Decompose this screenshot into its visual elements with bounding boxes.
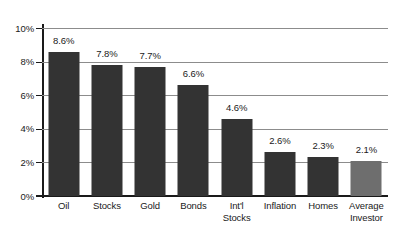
bar-slot: 8.6%	[42, 28, 85, 196]
x-axis-label-line: Homes	[302, 200, 345, 212]
bar-slot: 2.1%	[345, 28, 388, 196]
x-axis-label-stocks: Stocks	[85, 200, 128, 212]
plot-area: 8.6% 7.8% 7.7% 6.6% 4.6% 2.6%	[42, 28, 388, 196]
bar-value-label: 2.6%	[269, 136, 290, 146]
y-axis-tick-label: 10%	[0, 24, 34, 34]
x-axis-label-line: Average	[345, 200, 388, 212]
bar-value-label: 7.8%	[96, 49, 117, 59]
x-axis-label-line: Oil	[42, 200, 85, 212]
x-axis-label-bonds: Bonds	[172, 200, 215, 212]
bar-bonds[interactable]	[178, 85, 209, 196]
bar-value-label: 2.1%	[356, 145, 377, 155]
x-axis-label-oil: Oil	[42, 200, 85, 212]
bar-slot: 7.8%	[85, 28, 128, 196]
x-axis-label-line: Gold	[129, 200, 172, 212]
bar-slot: 7.7%	[129, 28, 172, 196]
bar-slot: 6.6%	[172, 28, 215, 196]
bar-intl-stocks[interactable]	[221, 119, 252, 196]
y-axis-tick-label: 2%	[0, 158, 34, 168]
x-axis-labels: Oil Stocks Gold Bonds Int'l Stocks Infla…	[42, 200, 388, 234]
x-axis-label-gold: Gold	[129, 200, 172, 212]
bar-homes[interactable]	[308, 157, 339, 196]
x-axis-label-average-investor: Average Investor	[345, 200, 388, 223]
x-axis-label-homes: Homes	[302, 200, 345, 212]
x-axis-label-line: Inflation	[258, 200, 301, 212]
bar-slot: 4.6%	[215, 28, 258, 196]
bar-inflation[interactable]	[264, 152, 295, 196]
y-axis-tick-label: 0%	[0, 192, 34, 202]
bar-value-label: 8.6%	[53, 36, 74, 46]
bar-gold[interactable]	[135, 67, 166, 196]
x-axis-label-intl-stocks: Int'l Stocks	[215, 200, 258, 223]
bar-stocks[interactable]	[91, 65, 122, 196]
bar-oil[interactable]	[48, 52, 79, 197]
x-axis-label-inflation: Inflation	[258, 200, 301, 212]
bar-slot: 2.6%	[258, 28, 301, 196]
x-axis-label-line: Bonds	[172, 200, 215, 212]
bar-chart: 10% 8% 6% 4% 2% 0% 8.6% 7.8% 7.7%	[0, 0, 405, 236]
bar-value-label: 2.3%	[312, 141, 333, 151]
x-axis-label-line: Investor	[345, 212, 388, 224]
bar-average-investor[interactable]	[351, 161, 382, 196]
y-axis-tick-label: 8%	[0, 57, 34, 67]
bar-value-label: 6.6%	[183, 69, 204, 79]
y-axis-tick-label: 4%	[0, 124, 34, 134]
x-axis-label-line: Stocks	[215, 212, 258, 224]
y-axis-tick-label: 6%	[0, 91, 34, 101]
bar-value-label: 7.7%	[139, 51, 160, 61]
y-axis-labels: 10% 8% 6% 4% 2% 0%	[0, 0, 34, 236]
x-axis-label-line: Int'l	[215, 200, 258, 212]
bar-slot: 2.3%	[302, 28, 345, 196]
bar-value-label: 4.6%	[226, 103, 247, 113]
x-axis-label-line: Stocks	[85, 200, 128, 212]
